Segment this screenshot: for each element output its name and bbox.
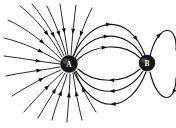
charge-b: B	[139, 55, 155, 71]
field-line-figure: A B	[0, 0, 176, 128]
charge-a: A	[61, 56, 78, 73]
field-line-canvas: A B	[0, 0, 176, 128]
charge-b-label: B	[144, 59, 149, 68]
charge-a-label: A	[66, 60, 72, 69]
